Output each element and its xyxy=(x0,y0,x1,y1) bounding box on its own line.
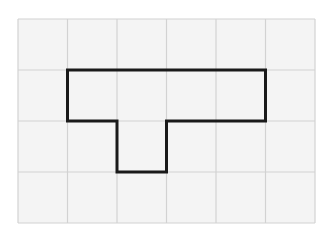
grid-cell xyxy=(167,70,217,121)
grid-cell xyxy=(117,172,167,223)
grid-cell xyxy=(18,70,68,121)
grid-cell xyxy=(68,19,118,70)
grid-cell xyxy=(216,70,266,121)
grid-cell xyxy=(117,121,167,172)
grid-cell xyxy=(117,70,167,121)
grid-cell xyxy=(18,172,68,223)
grid-cell xyxy=(18,19,68,70)
grid-cell xyxy=(18,121,68,172)
grid-cell xyxy=(117,19,167,70)
grid-cell xyxy=(68,172,118,223)
grid-shape-figure xyxy=(0,0,334,237)
grid-cell xyxy=(167,19,217,70)
grid-cell xyxy=(167,121,217,172)
grid-cell xyxy=(266,70,316,121)
grid-cell xyxy=(216,121,266,172)
grid-cell xyxy=(266,121,316,172)
figure-container xyxy=(0,0,334,237)
grid-cell xyxy=(68,70,118,121)
grid-cell xyxy=(266,172,316,223)
grid-cell xyxy=(68,121,118,172)
grid-cell xyxy=(216,19,266,70)
grid-cell xyxy=(216,172,266,223)
grid-cell xyxy=(266,19,316,70)
grid-cell xyxy=(167,172,217,223)
